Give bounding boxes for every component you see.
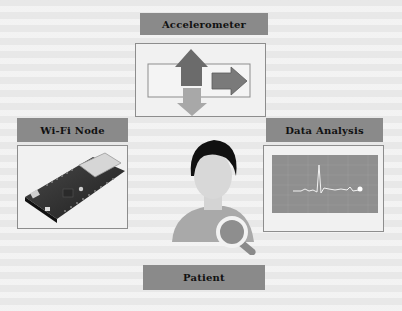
patient-label: Patient bbox=[143, 265, 265, 290]
wifi-node-label: Wi-Fi Node bbox=[17, 118, 128, 142]
accelerometer-label: Accelerometer bbox=[140, 13, 268, 35]
data-analysis-label: Data Analysis bbox=[266, 118, 383, 142]
wifi-node-label-text: Wi-Fi Node bbox=[40, 125, 105, 136]
patient-avatar bbox=[160, 130, 260, 255]
ecg-waveform-chart bbox=[263, 145, 384, 232]
accelerometer-label-text: Accelerometer bbox=[162, 19, 246, 30]
accelerometer-panel bbox=[135, 43, 266, 117]
microcontroller-board-image bbox=[17, 145, 128, 229]
wifi-node-panel bbox=[17, 145, 128, 229]
directional-arrows-icon bbox=[135, 43, 266, 117]
patient-label-text: Patient bbox=[183, 272, 225, 283]
data-analysis-panel bbox=[263, 145, 384, 232]
data-analysis-label-text: Data Analysis bbox=[285, 125, 364, 136]
